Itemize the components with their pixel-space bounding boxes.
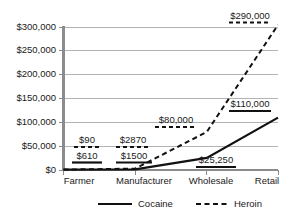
x-label-retail: Retail (255, 175, 279, 186)
y-label-150000: $150,000 (16, 92, 56, 103)
price-escalation-line-chart: $300,000 $250,000 $200,000 $150,000 $100… (0, 0, 295, 220)
label-cocaine-farmer: $610 (76, 150, 97, 161)
x-label-wholesale: Wholesale (189, 175, 233, 186)
x-label-farmer: Farmer (64, 175, 95, 186)
label-cocaine-retail: $110,000 (231, 98, 270, 109)
label-heroin-retail: $290,000 (230, 10, 270, 21)
y-label-200000: $200,000 (16, 68, 56, 79)
y-label-50000: $50,000 (22, 140, 56, 151)
x-label-manufacturer: Manufacturer (116, 175, 172, 186)
y-label-300000: $300,000 (16, 21, 56, 32)
y-label-100000: $100,000 (16, 116, 56, 127)
label-heroin-farmer: $90 (79, 134, 95, 145)
legend-label-cocaine: Cocaine (138, 198, 173, 209)
label-cocaine-manufacturer: $1500 (121, 150, 147, 161)
label-cocaine-wholesale: $25,250 (199, 154, 233, 165)
label-heroin-manufacturer: $2870 (120, 134, 146, 145)
legend-label-heroin: Heroin (234, 198, 262, 209)
y-label-0: $0 (45, 164, 56, 175)
label-heroin-wholesale: $80,000 (159, 114, 193, 125)
y-label-250000: $250,000 (16, 44, 56, 55)
